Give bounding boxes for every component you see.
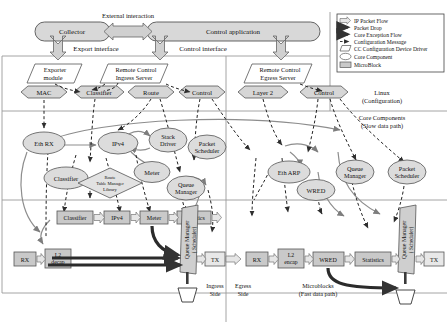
hex-layer2-label: Layer 2 [253, 89, 273, 96]
rtml-line3: Library [103, 187, 117, 192]
mb-tx-egress: TX [424, 252, 444, 266]
qms-ingress-line1: Queue Manager [184, 221, 190, 259]
egress-side-line1: Egress [235, 283, 252, 289]
core-ipv4-label: IPv4 [112, 140, 125, 147]
qms-egress-line2: ( Scheduler) [408, 227, 415, 254]
microblocks-fast-path-line1: Microblocks [302, 282, 334, 289]
export-interface-label: Export interface [73, 45, 118, 53]
core-qm-egress-line1: Queue [347, 165, 363, 172]
core-classifier-label: Classifier [54, 175, 79, 182]
rtml-line1: Route [105, 175, 116, 180]
legend-core-exception-flow-label: Core Exception Flow [354, 32, 403, 38]
core-meter: Meter [134, 162, 170, 183]
qms-egress-line1: Queue Manager [401, 221, 407, 259]
hex-route-label: Route [143, 89, 159, 96]
mb-wred: WRED [313, 252, 344, 266]
core-queue-manager-line1: Queue [178, 181, 194, 188]
rtml-line2: Table Manager [96, 181, 124, 186]
legend-cc-device-driver-label: CC Configuration Device Driver [354, 46, 428, 52]
core-eth-arp-label: Eth ARP [278, 169, 301, 176]
legend-cc-configuration-device-driver: CC Configuration Device Driver [340, 46, 428, 53]
control-interface-label: Control interface [179, 45, 227, 53]
microblocks-fast-path-line2: (Fast data path) [299, 290, 338, 298]
mb-meter-label: Meter [147, 215, 161, 221]
core-stack-driver-line2: Driver [160, 140, 176, 147]
mb-rx-egress: RX [246, 252, 268, 266]
legend: IP Packet Flow Packet Drop Core Exceptio… [337, 14, 444, 72]
mb-tx-egress-label: TX [430, 257, 439, 263]
core-ps-egress-line1: Packet [399, 165, 416, 172]
mb-rx: RX [14, 252, 36, 266]
hex-mac: MAC [21, 86, 67, 98]
hex-control-ingress: Control [179, 86, 225, 98]
core-packet-scheduler: Packet Scheduler [188, 135, 226, 159]
core-queue-manager-line2: Manager [175, 188, 197, 195]
legend-core-component: Core Component [340, 53, 393, 59]
mb-classifier: Classifier [57, 211, 93, 224]
rectangle-icon [340, 62, 351, 67]
queue-manager-scheduler-ingress: Queue Manager ( Scheduler) [180, 205, 198, 274]
core-qm-egress-line2: Manager [344, 172, 366, 179]
mb-statistics-egress: Statistics [355, 252, 391, 266]
mb-rx-egress-label: RX [253, 257, 262, 263]
parallelogram-icon [340, 46, 351, 52]
core-queue-manager: Queue Manager [167, 176, 205, 200]
rc-ingress-line2: Ingress Server [116, 74, 154, 81]
architecture-diagram: Collector Control application External i… [0, 0, 447, 322]
mb-tx-ingress-label: TX [211, 257, 220, 263]
rc-egress-line1: Remote Control [259, 66, 300, 73]
core-eth-arp: Eth ARP [268, 161, 310, 183]
core-stack-driver-line1: Stack [161, 133, 176, 140]
egress-side-line2: Side [238, 291, 249, 297]
core-eth-rx-label: Eth RX [34, 140, 54, 147]
core-eth-rx: Eth RX [23, 132, 65, 154]
queue-manager-scheduler-egress: Queue Manager ( Scheduler) [398, 205, 416, 274]
hex-route: Route [128, 86, 174, 98]
core-stack-driver: Stack Driver [149, 128, 187, 152]
ingress-side-line1: Ingress [206, 283, 224, 289]
collector-label: Collector [59, 28, 86, 36]
exporter-module-line2: module [43, 74, 62, 81]
remote-control-egress-server: Remote Control Egress Server [244, 64, 312, 83]
exporter-module-line1: Exporter [44, 66, 67, 73]
core-meter-label: Meter [144, 169, 160, 176]
hex-control-egress: Control [300, 86, 348, 98]
control-application-label: Control application [206, 28, 261, 36]
exporter-module: Exporter module [27, 64, 82, 83]
hex-control-ingress-label: Control [192, 89, 212, 96]
legend-microblock: MicroBlock [340, 62, 381, 68]
mb-classifier-label: Classifier [64, 215, 87, 221]
core-wred-label: WRED [307, 187, 326, 194]
linux-label-line2: (Configuration) [362, 97, 402, 105]
rc-ingress-line1: Remote Control [115, 66, 156, 73]
hex-mac-label: MAC [36, 89, 52, 96]
ingress-side-line2: Side [210, 291, 221, 297]
diagram-canvas: Collector Control application External i… [0, 0, 447, 322]
core-classifier: Classifier [44, 167, 88, 189]
mb-statistics-egress-label: Statistics [362, 257, 384, 263]
mb-l2-encap-line2: encap [284, 259, 298, 265]
mb-ipv4: IPv4 [104, 211, 130, 224]
mb-wred-label: WRED [319, 257, 337, 263]
legend-microblock-label: MicroBlock [354, 62, 381, 68]
external-interaction-label: External interaction [102, 12, 155, 19]
core-packet-scheduler-line2: Scheduler [195, 147, 220, 154]
core-packet-scheduler-egress: Packet Scheduler [388, 160, 426, 184]
hex-layer2: Layer 2 [238, 86, 288, 98]
rc-egress-line2: Egress Server [260, 74, 296, 81]
legend-core-component-label: Core Component [354, 54, 393, 60]
core-packet-scheduler-line1: Packet [199, 140, 216, 147]
legend-ip-packet-flow: IP Packet Flow [340, 17, 389, 24]
core-ipv4: IPv4 [98, 132, 138, 154]
legend-ip-packet-flow-label: IP Packet Flow [354, 18, 389, 24]
mb-ipv4-label: IPv4 [111, 215, 122, 221]
mb-l2-encap: L2 encap [278, 249, 304, 268]
remote-control-ingress-server: Remote Control Ingress Server [100, 64, 168, 83]
legend-packet-drop-label: Packet Drop [354, 25, 382, 31]
mb-tx-ingress: TX [205, 252, 225, 266]
mb-meter: Meter [140, 211, 168, 224]
legend-configuration-message-label: Configuration Message [354, 39, 407, 45]
core-queue-manager-egress: Queue Manager [336, 160, 374, 184]
core-components-label-line1: Core Components [359, 114, 406, 121]
mb-rx-label: RX [21, 257, 30, 263]
